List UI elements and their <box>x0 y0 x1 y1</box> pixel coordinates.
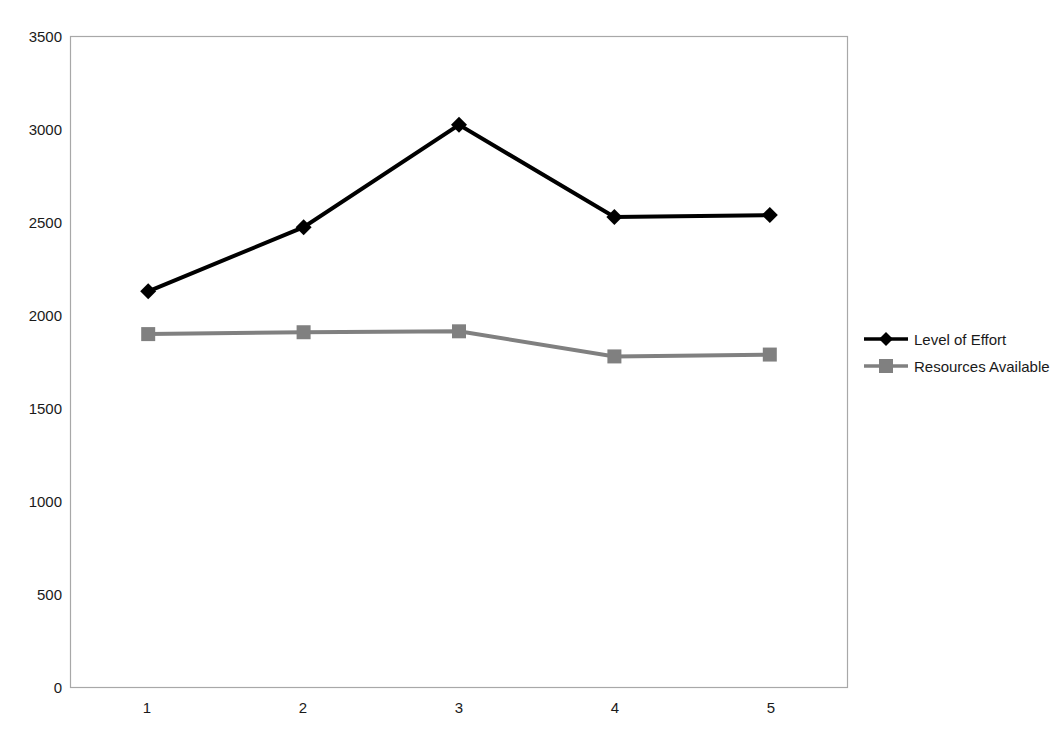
y-tick-label: 3000 <box>29 121 62 138</box>
plot-area-border <box>71 37 848 688</box>
x-tick-label: 1 <box>143 699 151 716</box>
x-tick-label: 3 <box>455 699 463 716</box>
legend-label: Resources Available <box>914 358 1050 375</box>
y-tick-label: 1000 <box>29 493 62 510</box>
diamond-marker-icon <box>879 332 893 346</box>
legend-label: Level of Effort <box>914 331 1007 348</box>
square-marker-icon <box>452 324 466 338</box>
y-tick-label: 1500 <box>29 400 62 417</box>
y-axis-tick-labels: 3500 3000 2500 2000 1500 1000 500 0 <box>29 28 62 696</box>
legend-item-resources-available[interactable]: Resources Available <box>864 358 1050 375</box>
series-line <box>148 125 770 291</box>
square-marker-icon <box>879 359 893 373</box>
square-marker-icon <box>141 327 155 341</box>
chart-canvas: 3500 3000 2500 2000 1500 1000 500 0 1 2 … <box>0 0 1062 735</box>
series-level-of-effort <box>140 117 778 299</box>
diamond-marker-icon <box>762 207 778 223</box>
square-marker-icon <box>297 325 311 339</box>
x-axis-tick-labels: 1 2 3 4 5 <box>143 699 775 716</box>
diamond-marker-icon <box>140 283 156 299</box>
square-marker-icon <box>607 349 621 363</box>
legend-item-level-of-effort[interactable]: Level of Effort <box>864 331 1007 348</box>
square-marker-icon <box>763 348 777 362</box>
series-resources-available <box>141 324 777 363</box>
y-tick-label: 2000 <box>29 307 62 324</box>
y-tick-label: 0 <box>54 679 62 696</box>
chart-legend: Level of Effort Resources Available <box>864 331 1050 375</box>
y-tick-label: 3500 <box>29 28 62 45</box>
y-tick-label: 500 <box>37 586 62 603</box>
x-tick-label: 2 <box>299 699 307 716</box>
x-tick-label: 5 <box>767 699 775 716</box>
data-series-layer <box>140 117 778 364</box>
x-tick-label: 4 <box>611 699 619 716</box>
line-chart: 3500 3000 2500 2000 1500 1000 500 0 1 2 … <box>0 0 1062 735</box>
y-tick-label: 2500 <box>29 214 62 231</box>
